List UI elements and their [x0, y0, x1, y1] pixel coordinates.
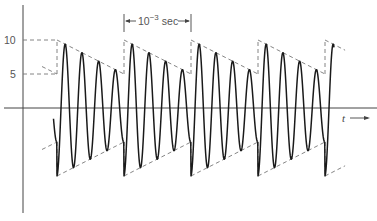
period-left-arrowhead — [125, 19, 130, 23]
period-annotation: 10−3sec — [124, 13, 191, 32]
period-label-base: 10 — [138, 15, 150, 27]
modulated-signal-diagram: 10 5 10−3sec t — [0, 0, 377, 221]
envelope-upper-tail — [42, 67, 57, 74]
y-tick-label-10: 10 — [4, 34, 16, 46]
envelope-lower-tail — [42, 142, 57, 149]
period-label-unit: sec — [162, 15, 178, 27]
envelope-lower — [325, 166, 345, 176]
y-tick-label-5: 5 — [10, 68, 16, 80]
period-label-exponent: −3 — [150, 13, 160, 22]
envelope-upper — [325, 40, 345, 50]
period-label: 10−3sec — [138, 13, 178, 27]
time-axis-label: t — [342, 112, 346, 124]
time-arrowhead — [364, 116, 370, 120]
period-right-arrowhead — [185, 19, 190, 23]
